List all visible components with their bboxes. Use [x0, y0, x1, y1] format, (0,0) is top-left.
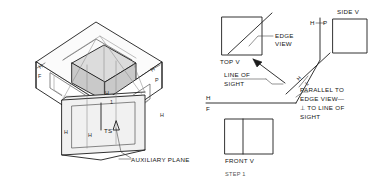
line-of-sight-arrowhead [253, 59, 262, 67]
fold-hp-p-label: P [323, 19, 327, 26]
line-of-sight-label-2: SIGHT [224, 80, 244, 87]
iso-label-f-left: F [38, 73, 42, 79]
drawing-svg: H F H P H H H H 1 TS AUXILIARY PLANE [0, 0, 376, 189]
top-view-group: TOP V [220, 13, 272, 65]
top-view-fill [222, 17, 262, 55]
iso-label-one: 1 [110, 99, 113, 105]
fold-aux-h-label: H [295, 75, 302, 82]
step-label: STEP 1 [225, 171, 246, 177]
iso-label-h-left-wall: H [64, 129, 68, 135]
parallel-note-line-2: EDGE VIEW— [300, 95, 345, 102]
iso-label-p-right: P [155, 77, 159, 83]
edge-view-label-2: VIEW [275, 40, 292, 47]
fold-line-hf: H F [206, 94, 296, 112]
parallel-note-line-1: PARALLEL TO [300, 86, 344, 93]
iso-label-h-front-top: H [105, 90, 109, 96]
iso-label-h-front-left: H [88, 132, 92, 138]
orthographic-layout: TOP V EDGE VIEW LINE OF SIGHT H [206, 8, 367, 177]
isometric-glass-box: H F H P H H H H 1 TS AUXILIARY PLANE [36, 22, 190, 163]
parallel-note-line-4: SIGHT [300, 113, 320, 120]
auxiliary-plane-label: AUXILIARY PLANE [131, 156, 190, 163]
fold-hf-h-label: H [206, 94, 211, 101]
fold-hp-h-label: H [310, 19, 315, 26]
iso-label-true-shape: TS [104, 127, 113, 134]
iso-label-h-right-wall: H [160, 112, 164, 118]
parallel-note: PARALLEL TO EDGE VIEW— ⊥ TO LINE OF SIGH… [296, 86, 345, 120]
fold-hf-f-label: F [206, 105, 210, 112]
front-view-label: FRONT V [225, 157, 255, 164]
edge-view-label-1: EDGE [275, 32, 294, 39]
side-view-label: SIDE V [337, 8, 360, 15]
front-view-fill [225, 119, 273, 154]
side-view-group: SIDE V [333, 8, 367, 53]
technical-drawing-canvas: H F H P H H H H 1 TS AUXILIARY PLANE [0, 0, 376, 189]
side-view-fill [333, 19, 367, 53]
line-of-sight-label-1: LINE OF [224, 71, 250, 78]
top-view-label: TOP V [220, 58, 240, 65]
parallel-note-line-3: ⊥ TO LINE OF [300, 104, 344, 111]
front-view-group: FRONT V [225, 119, 273, 164]
